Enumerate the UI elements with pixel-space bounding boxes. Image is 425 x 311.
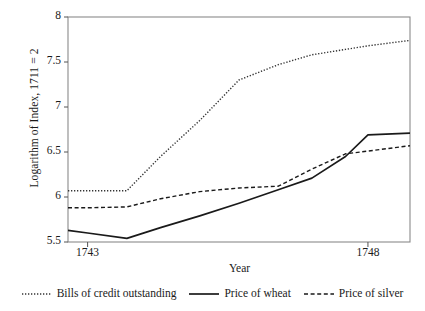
series-line <box>68 133 410 238</box>
axis-ticks <box>64 17 368 247</box>
dotted-line-swatch <box>22 290 52 298</box>
legend-label: Price of silver <box>339 288 404 300</box>
legend-entry: Price of wheat <box>189 288 290 300</box>
plot-frame <box>68 17 410 242</box>
series-line <box>68 40 410 190</box>
solid-line-swatch <box>189 290 219 298</box>
legend-entry: Bills of credit outstanding <box>22 288 177 300</box>
legend-entry: Price of silver <box>304 288 404 300</box>
dashed-line-swatch <box>304 290 334 298</box>
legend-label: Bills of credit outstanding <box>57 288 177 300</box>
legend-label: Price of wheat <box>224 288 290 300</box>
chart-legend: Bills of credit outstandingPrice of whea… <box>0 283 425 305</box>
data-series-group <box>68 40 410 238</box>
series-line <box>68 146 410 208</box>
chart-figure: Logarithm of Index, 1711 = 2 5.566.577.5… <box>0 0 425 311</box>
plot-area <box>0 0 425 311</box>
